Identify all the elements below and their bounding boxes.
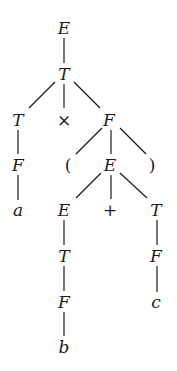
tree-node: T	[58, 66, 69, 83]
tree-node: F	[150, 248, 162, 265]
tree-node: E	[58, 202, 70, 219]
tree-node: E	[58, 20, 70, 37]
parse-tree-diagram: ETT×FF(E)aE+TTFFcb	[0, 0, 177, 371]
tree-edge	[76, 173, 101, 198]
tree-node: (	[65, 157, 72, 174]
tree-edge	[76, 128, 102, 154]
tree-node: T	[12, 112, 23, 129]
tree-edge	[120, 173, 147, 198]
tree-node: c	[151, 294, 161, 311]
tree-edge	[120, 128, 146, 154]
tree-node: E	[104, 157, 116, 174]
tree-edge	[29, 82, 55, 108]
tree-node: T	[150, 202, 161, 219]
tree-node: b	[59, 339, 70, 356]
tree-node: T	[58, 248, 69, 265]
tree-node: +	[103, 202, 117, 219]
tree-node: F	[103, 112, 115, 129]
tree-edges	[0, 0, 177, 371]
tree-edge	[74, 82, 100, 108]
tree-node: F	[58, 294, 70, 311]
tree-node: )	[149, 157, 156, 174]
tree-node: ×	[57, 112, 71, 129]
tree-node: a	[13, 202, 23, 219]
tree-node: F	[12, 157, 24, 174]
